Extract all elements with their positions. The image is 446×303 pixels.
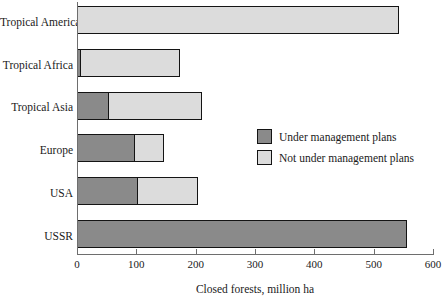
bar-tropical-america [77,6,399,34]
bar-segment-unmanaged [78,7,398,33]
x-axis-tick-label: 500 [354,258,394,270]
y-axis-line [77,2,78,254]
bar-ussr [77,220,407,248]
category-label-ussr: USSR [0,230,73,242]
legend-swatch-unmanaged-icon [257,150,272,165]
bar-segment-unmanaged [134,135,162,161]
legend-label-managed: Under management plans [279,131,397,143]
closed-forests-bar-chart: Tropical America Tropical Africa Tropica… [0,0,446,303]
legend-item-unmanaged: Not under management plans [257,148,414,167]
x-axis-tick [77,249,78,255]
category-label-tropical-america: Tropical America [0,16,73,28]
x-axis-tick-label: 400 [294,258,334,270]
bar-europe [77,134,164,162]
legend-item-managed: Under management plans [257,127,414,146]
x-axis-tick [196,249,197,255]
legend: Under management plans Not under managem… [257,127,414,169]
x-axis-tick [374,249,375,255]
x-axis-tick [255,249,256,255]
category-label-tropical-asia: Tropical Asia [0,101,73,113]
x-axis-tick-label: 100 [116,258,156,270]
x-axis-tick [433,249,434,255]
bar-segment-unmanaged [80,50,179,76]
bar-segment-managed [78,178,137,204]
bar-segment-managed [78,221,406,247]
category-label-europe: Europe [0,144,73,156]
bar-usa [77,177,198,205]
legend-swatch-managed-icon [257,129,272,144]
x-axis-tick [136,249,137,255]
bar-segment-managed [78,93,108,119]
x-axis-tick-label: 200 [176,258,216,270]
bar-tropical-africa [77,49,180,77]
bar-segment-unmanaged [108,93,201,119]
legend-label-unmanaged: Not under management plans [279,152,414,164]
category-label-tropical-africa: Tropical Africa [0,59,73,71]
x-axis-tick-label: 300 [235,258,275,270]
bar-segment-managed [78,135,134,161]
x-axis-tick-label: 600 [413,258,446,270]
x-axis-title: Closed forests, million ha [77,283,433,295]
category-label-usa: USA [0,187,73,199]
x-axis-tick [314,249,315,255]
x-axis-tick-label: 0 [57,258,97,270]
bar-segment-unmanaged [137,178,196,204]
bar-tropical-asia [77,92,202,120]
